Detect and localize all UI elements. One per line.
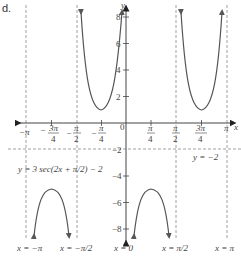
svg-text:−8: −8 xyxy=(112,224,122,234)
svg-text:x = −π: x = −π xyxy=(16,243,43,253)
svg-text:−4: −4 xyxy=(112,171,122,181)
svg-text:π: π xyxy=(99,123,104,133)
graph: −π −3π 4 −π 2 −π 4 0 π 4 π 2 3π 4 π x y … xyxy=(0,0,241,265)
svg-text:x = π: x = π xyxy=(214,243,235,253)
svg-text:2: 2 xyxy=(116,92,121,102)
equation-label: y = 3 sec(2x + π/2) − 2 xyxy=(17,164,103,174)
svg-text:−: − xyxy=(40,125,46,135)
svg-text:−2: −2 xyxy=(112,145,122,155)
svg-text:4: 4 xyxy=(99,134,104,144)
svg-text:2: 2 xyxy=(74,134,79,144)
x-axis-label: x xyxy=(233,122,238,132)
x-tick-labels: −π −3π 4 −π 2 −π 4 0 π 4 π 2 3π 4 π x xyxy=(19,122,238,144)
svg-text:−: − xyxy=(66,128,72,138)
branch-down-left xyxy=(34,189,69,236)
svg-text:3π: 3π xyxy=(48,123,59,133)
svg-text:8: 8 xyxy=(116,12,121,22)
branch-down-right xyxy=(134,189,169,236)
y-axis-label: y xyxy=(120,0,125,10)
svg-text:4: 4 xyxy=(198,134,203,144)
svg-text:x = 0: x = 0 xyxy=(113,243,134,253)
svg-text:π: π xyxy=(173,123,178,133)
midline-label: y = −2 xyxy=(192,152,219,162)
svg-text:4: 4 xyxy=(51,134,56,144)
svg-text:3π: 3π xyxy=(195,123,206,133)
svg-text:2: 2 xyxy=(173,134,178,144)
svg-text:π: π xyxy=(148,123,153,133)
svg-text:x = −π/2: x = −π/2 xyxy=(59,243,93,253)
svg-text:x = π/2: x = π/2 xyxy=(161,243,189,253)
branch-up-right xyxy=(181,12,222,110)
svg-text:−π: −π xyxy=(19,127,30,137)
svg-text:−6: −6 xyxy=(112,198,122,208)
svg-text:π: π xyxy=(224,123,229,133)
svg-text:π: π xyxy=(74,123,79,133)
svg-text:4: 4 xyxy=(148,134,153,144)
svg-text:−: − xyxy=(91,128,97,138)
y-tick-labels: y 8 6 4 2 −2 −4 −6 −8 xyxy=(112,0,125,234)
svg-text:0: 0 xyxy=(120,122,125,132)
asymptote-labels: x = −π x = −π/2 x = 0 x = π/2 x = π xyxy=(16,243,235,253)
